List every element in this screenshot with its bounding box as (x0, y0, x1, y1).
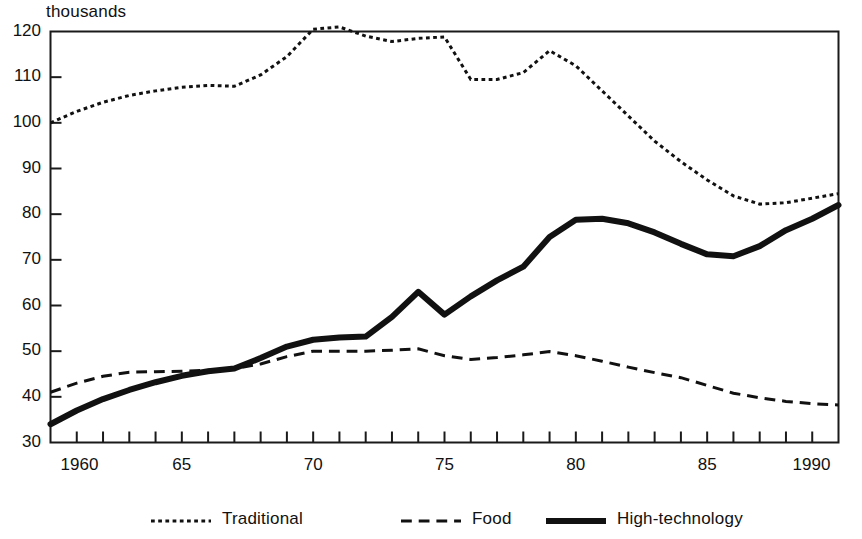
data-series-group (51, 27, 839, 424)
series-line-traditional (51, 27, 839, 204)
chart-legend: TraditionalFoodHigh-technology (0, 498, 862, 539)
y-axis-tick-label: 110 (0, 66, 41, 86)
legend-swatch-dotted (150, 513, 212, 525)
x-axis-tick-label: 80 (541, 455, 611, 475)
y-axis-tick-label: 100 (0, 112, 41, 132)
x-axis-tick-label: 65 (147, 455, 217, 475)
y-axis-tick-label: 70 (0, 249, 41, 269)
legend-swatch-dashed (400, 513, 462, 525)
legend-item[interactable]: Food (400, 498, 512, 539)
y-axis-tick-label: 40 (0, 386, 41, 406)
chart-container: thousands 30405060708090100110120 196065… (0, 0, 862, 539)
legend-item[interactable]: Traditional (150, 498, 303, 539)
legend-label: Traditional (222, 509, 303, 529)
y-axis-tick-label: 30 (0, 432, 41, 452)
legend-label: Food (472, 509, 512, 529)
legend-item[interactable]: High-technology (545, 498, 743, 539)
x-axis-tick-label: 85 (672, 455, 742, 475)
legend-swatch-solid (545, 513, 607, 525)
x-axis-tick-label: 70 (278, 455, 348, 475)
y-axis-tick-label: 120 (0, 21, 41, 41)
series-line-high-technology (51, 205, 839, 424)
legend-label: High-technology (617, 509, 743, 529)
x-axis-tick-label: 1990 (777, 455, 847, 475)
x-axis-tick-label: 75 (410, 455, 480, 475)
x-axis-tick-label: 1960 (45, 455, 115, 475)
y-axis-tick-label: 50 (0, 340, 41, 360)
y-axis-tick-label: 60 (0, 295, 41, 315)
y-axis-tick-label: 80 (0, 203, 41, 223)
y-axis-tick-label: 90 (0, 158, 41, 178)
